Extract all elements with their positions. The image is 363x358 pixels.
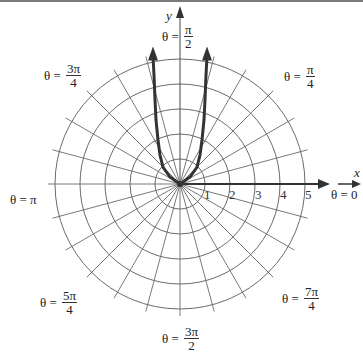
polar-spoke — [66, 184, 180, 250]
x-axis-arrowhead — [318, 179, 330, 189]
angle-prefix: θ = — [162, 331, 182, 346]
angle-label-0: θ = 0 — [331, 188, 358, 201]
angle-denominator: 2 — [184, 339, 199, 352]
polar-spoke — [87, 184, 180, 277]
angle-prefix: θ = — [282, 291, 302, 306]
polar-spoke — [66, 118, 180, 184]
polar-spoke — [114, 184, 180, 298]
polar-spoke — [114, 70, 180, 184]
angle-numerator: π — [184, 23, 193, 37]
angle-label-pi-2: θ = π2 — [162, 23, 193, 50]
polar-spoke — [180, 70, 246, 184]
angle-prefix: θ = — [162, 29, 182, 44]
y-axis-arrowhead — [176, 6, 184, 18]
y-axis-label: y — [166, 9, 172, 22]
angle-label-pi-4: θ = π4 — [284, 63, 315, 90]
polar-spoke — [180, 184, 294, 250]
angle-label-5pi-4: θ = 5π4 — [40, 289, 77, 316]
polar-spoke — [146, 184, 180, 312]
angle-prefix: θ = — [40, 295, 60, 310]
angle-denominator: 4 — [306, 77, 315, 90]
radial-tick-3: 3 — [255, 187, 262, 203]
angle-numerator: 7π — [304, 285, 319, 299]
angle-prefix: θ = — [331, 187, 351, 202]
angle-denominator: 4 — [66, 76, 81, 89]
angle-numerator: 3π — [66, 62, 81, 76]
angle-prefix: θ = — [284, 69, 304, 84]
polar-spokes — [48, 57, 308, 317]
polar-spoke — [180, 184, 308, 218]
radial-tick-5: 5 — [305, 187, 312, 203]
angle-prefix: θ = — [10, 192, 30, 207]
angle-label-3pi-2: θ = 3π2 — [162, 325, 199, 352]
radial-tick-2: 2 — [229, 187, 236, 203]
angle-prefix: θ = — [44, 68, 64, 83]
curve-left-branch — [153, 57, 180, 185]
polar-spoke — [180, 118, 294, 184]
curve-right-arrowhead — [202, 47, 212, 61]
angle-numerator: 3π — [184, 325, 199, 339]
polar-spoke — [180, 184, 246, 298]
angle-denominator: 2 — [184, 37, 193, 50]
polar-spoke — [53, 184, 181, 218]
angle-numerator: 5π — [62, 289, 77, 303]
radial-tick-4: 4 — [280, 187, 287, 203]
polar-spoke — [180, 184, 214, 312]
angle-value: π — [30, 192, 37, 207]
angle-value: 0 — [351, 187, 358, 202]
angle-denominator: 4 — [304, 299, 319, 312]
angle-numerator: π — [306, 63, 315, 77]
radial-tick-1: 1 — [204, 187, 211, 203]
curve-left-arrowhead — [148, 47, 158, 61]
angle-label-pi: θ = π — [10, 193, 37, 206]
angle-label-7pi-4: θ = 7π4 — [282, 285, 319, 312]
angle-denominator: 4 — [62, 303, 77, 316]
angle-label-3pi-4: θ = 3π4 — [44, 62, 81, 89]
curve-right-branch — [180, 57, 207, 185]
x-axis-label: x — [354, 166, 360, 179]
origin-dot — [177, 181, 183, 187]
